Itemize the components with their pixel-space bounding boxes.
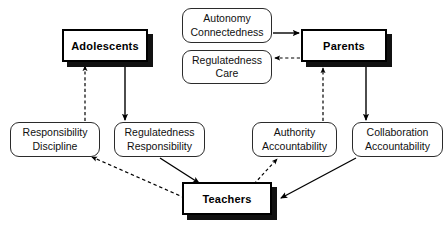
edge-teachers-to-authority-accountability xyxy=(254,159,277,184)
node-parents-label: Parents xyxy=(320,40,368,52)
node-regulatedness-responsibility[interactable]: Regulatedness Responsibility xyxy=(114,122,205,157)
node-parents[interactable]: Parents xyxy=(301,29,387,62)
node-adolescents-label: Adolescents xyxy=(68,40,142,52)
node-authority-accountability-label: Authority Accountability xyxy=(259,126,330,152)
edge-collaboration-accountability-to-teachers xyxy=(281,158,356,198)
node-autonomy-connectedness-label: Autonomy Connectedness xyxy=(188,12,267,38)
node-responsibility-discipline[interactable]: Responsibility Discipline xyxy=(10,122,100,157)
node-autonomy-connectedness[interactable]: Autonomy Connectedness xyxy=(182,8,272,43)
node-adolescents[interactable]: Adolescents xyxy=(62,29,148,62)
node-regulatedness-care-label: Regulatedness Care xyxy=(189,54,265,80)
diagram-canvas: Adolescents Parents Teachers Autonomy Co… xyxy=(0,0,447,235)
node-collaboration-accountability[interactable]: Collaboration Accountability xyxy=(352,122,443,157)
node-teachers[interactable]: Teachers xyxy=(182,182,272,215)
edge-regulatedness-responsibility-to-teachers xyxy=(160,158,199,183)
node-authority-accountability[interactable]: Authority Accountability xyxy=(252,122,337,157)
edge-teachers-to-responsibility-discipline xyxy=(92,157,185,198)
node-responsibility-discipline-label: Responsibility Discipline xyxy=(20,126,91,152)
node-regulatedness-responsibility-label: Regulatedness Responsibility xyxy=(121,126,197,152)
node-regulatedness-care[interactable]: Regulatedness Care xyxy=(182,50,272,84)
node-teachers-label: Teachers xyxy=(199,193,254,205)
node-collaboration-accountability-label: Collaboration Accountability xyxy=(362,126,433,152)
